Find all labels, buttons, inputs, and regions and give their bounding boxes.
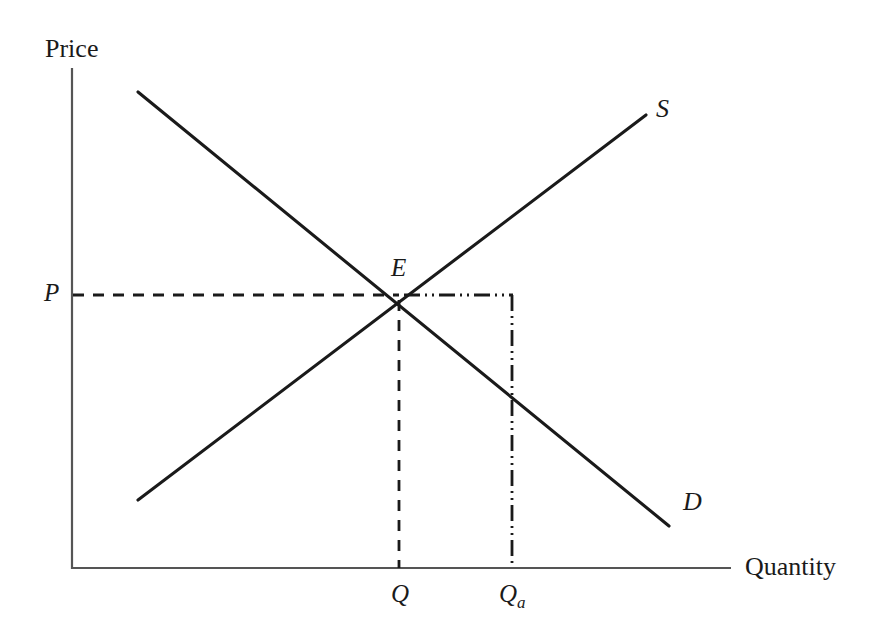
supply-curve — [138, 115, 646, 500]
quantity-a-label: Qa — [499, 581, 526, 611]
x-axis-label: Quantity — [745, 554, 836, 580]
y-axis-label: Price — [45, 36, 98, 62]
equilibrium-price-label: P — [44, 280, 59, 305]
demand-curve-label: D — [683, 489, 702, 515]
supply-demand-figure: Price Quantity S D E P Q Qa — [0, 0, 888, 632]
quantity-a-base: Q — [499, 580, 517, 607]
equilibrium-point-label: E — [391, 255, 406, 280]
supply-curve-label: S — [656, 96, 669, 122]
equilibrium-quantity-label: Q — [391, 581, 409, 606]
quantity-a-subscript: a — [517, 593, 526, 612]
chart-canvas — [0, 0, 888, 632]
